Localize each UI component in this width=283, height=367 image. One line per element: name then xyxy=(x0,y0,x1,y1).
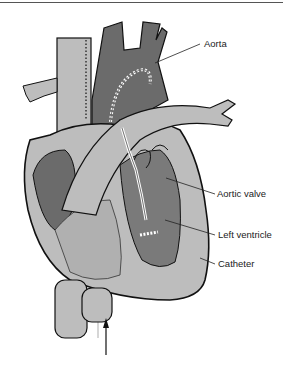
label-catheter: Catheter xyxy=(218,258,254,269)
label-aortic-valve: Aortic valve xyxy=(217,188,266,199)
label-aorta: Aorta xyxy=(204,38,227,49)
heart-illustration xyxy=(0,0,283,367)
insertion-arrow-icon xyxy=(103,318,109,355)
inferior-vessel-right xyxy=(82,288,112,322)
label-left-ventricle: Left ventricle xyxy=(218,229,272,240)
pulmonary-vessel-left xyxy=(23,78,57,102)
